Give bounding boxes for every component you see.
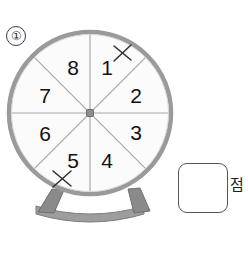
sector-label-8: 8 [67, 56, 79, 79]
worksheet-problem-canvas: ① 1 2 3 4 5 6 7 8 [0, 0, 248, 270]
sector-label-3: 3 [130, 121, 142, 144]
sector-label-1: 1 [101, 56, 113, 79]
sector-label-7: 7 [39, 84, 51, 107]
answer-unit-label: 점 [230, 176, 244, 194]
sector-label-2: 2 [130, 84, 142, 107]
spinner-stand-leg-left [38, 189, 64, 213]
sector-label-4: 4 [101, 149, 113, 172]
answer-input-box[interactable] [178, 163, 228, 213]
spinner-wheel-illustration: 1 2 3 4 5 6 7 8 [0, 0, 248, 270]
spinner-center-hub [87, 110, 94, 117]
sector-label-6: 6 [39, 122, 51, 145]
sector-label-5: 5 [67, 149, 79, 172]
